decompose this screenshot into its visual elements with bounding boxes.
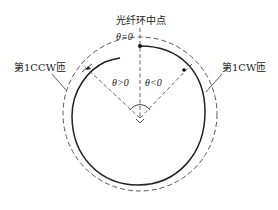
right-intersection-dot	[182, 68, 186, 72]
fiber-ring-midpoint-label: 光纤环中点	[116, 15, 166, 27]
fiber-ring-diagram	[0, 0, 278, 210]
theta-positive-label: θ>0	[112, 77, 129, 89]
ccw-turn-label: 第1CCW匝	[14, 62, 66, 74]
fiber-turn-solid-curve	[72, 46, 205, 185]
ccw-leader-line	[52, 74, 66, 90]
left-diagonal-dashed-line	[84, 66, 140, 118]
center-arrow-icon	[136, 119, 144, 123]
right-diagonal-dashed-line	[140, 64, 192, 118]
theta-negative-label: θ<0	[145, 77, 162, 89]
theta-zero-label: θ=0	[116, 31, 133, 43]
cw-leader-line	[206, 74, 222, 92]
cw-turn-label: 第1CW匝	[222, 62, 266, 74]
